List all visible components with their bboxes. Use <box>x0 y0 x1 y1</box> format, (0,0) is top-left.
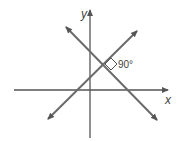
angle-label: 90° <box>118 59 133 70</box>
coordinate-diagram: y x 90° <box>0 0 183 141</box>
y-axis-label: y <box>80 7 88 21</box>
line-increasing <box>48 31 137 119</box>
x-axis-label: x <box>164 93 172 107</box>
line-decreasing <box>66 27 157 120</box>
